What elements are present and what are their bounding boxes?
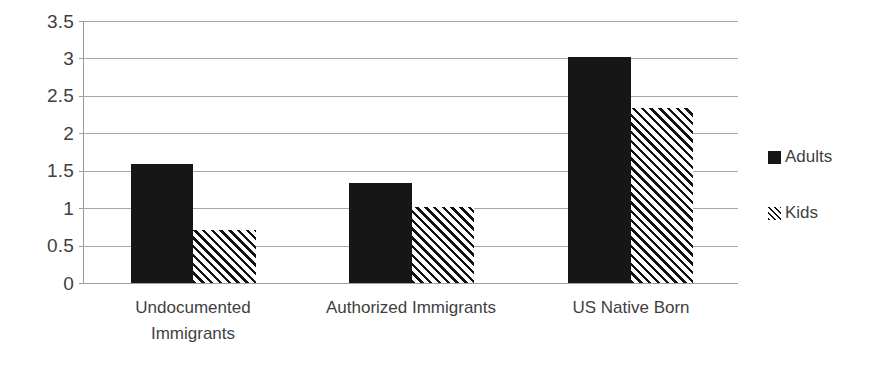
- y-tick-label: 2.5: [14, 86, 74, 105]
- legend-item-kids: Kids: [768, 202, 878, 224]
- legend-item-adults: Adults: [768, 146, 878, 168]
- y-tick-label: 1: [14, 199, 74, 218]
- bar-adults-undocumented-immigrants: [131, 164, 193, 283]
- y-tick-label: 2: [14, 124, 74, 143]
- y-axis-tick-labels: 3.5 3 2.5 2 1.5 1 0.5 0: [8, 0, 74, 365]
- bar-adults-us-native-born: [568, 57, 631, 283]
- gridline-3: [83, 58, 738, 59]
- legend: Adults Kids: [768, 146, 878, 258]
- y-tick-label: 3.5: [14, 12, 74, 31]
- bar-kids-us-native-born: [631, 108, 693, 283]
- legend-label-adults: Adults: [785, 148, 832, 166]
- bar-adults-authorized-immigrants: [349, 183, 412, 283]
- legend-label-kids: Kids: [785, 204, 818, 222]
- hatched-square-icon: [768, 207, 781, 220]
- x-axis-label-authorized-immigrants: Authorized Immigrants: [321, 295, 501, 321]
- y-tick-label: 0: [14, 274, 74, 293]
- plot-area: [83, 21, 738, 283]
- gridline-baseline-0: [83, 283, 738, 284]
- bar-kids-authorized-immigrants: [412, 207, 474, 283]
- y-tick-label: 0.5: [14, 236, 74, 255]
- gridline-3-5: [83, 21, 738, 22]
- solid-square-icon: [768, 151, 781, 164]
- y-tick-label: 3: [14, 49, 74, 68]
- gridline-2-5: [83, 96, 738, 97]
- bar-chart: 3.5 3 2.5 2 1.5 1 0.5 0 Undocument: [0, 0, 882, 365]
- y-tick-label: 1.5: [14, 161, 74, 180]
- x-axis-label-undocumented-immigrants: Undocumented Immigrants: [113, 295, 273, 347]
- bar-kids-undocumented-immigrants: [193, 230, 256, 283]
- x-axis-label-us-native-born: US Native Born: [541, 295, 721, 321]
